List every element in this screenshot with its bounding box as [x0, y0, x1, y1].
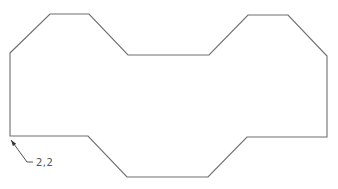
coordinate-label: 2,2 [36, 157, 53, 168]
arrowhead-icon [11, 140, 16, 146]
drawing-canvas: 2,2 [0, 0, 338, 189]
dimension-annotation: 2,2 [11, 140, 53, 168]
shape-outline [10, 14, 327, 177]
